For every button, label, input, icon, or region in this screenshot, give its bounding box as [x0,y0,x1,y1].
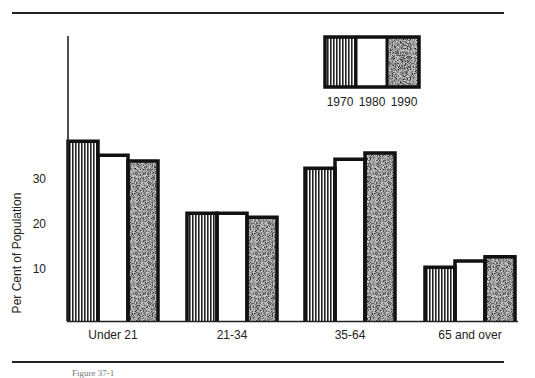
y-tick-label: 20 [33,217,47,231]
bar-1970 [187,213,217,321]
legend-label-1980: 1980 [359,95,386,109]
legend-label-1990: 1990 [391,95,418,109]
legend-swatch-1970 [325,37,356,87]
x-tick-label: 21-34 [217,328,248,342]
bar-1970 [68,141,98,321]
x-tick-label: 35-64 [335,328,366,342]
x-tick-label: Under 21 [88,328,138,342]
bar-1980 [335,159,365,321]
bar-1970 [425,267,455,321]
legend-swatch-1980 [356,37,387,87]
bar-group-under-21 [68,141,158,321]
legend-swatch-1990 [387,37,419,87]
bar-group-21-34 [187,213,277,321]
bar-1990 [128,161,158,321]
bar-1970 [305,168,335,321]
bar-1990 [247,217,277,321]
bar-1980 [217,213,247,321]
legend-label-1970: 1970 [327,95,354,109]
bar-1990 [485,257,515,321]
x-category-labels: Under 2121-3435-6465 and over [88,328,501,342]
y-tick-label: 30 [33,172,47,186]
bar-group-65-and-over [425,257,515,321]
bar-1980 [98,155,128,321]
figure-caption: Figure 37-1 [72,368,114,378]
y-tick-labels: 102030 [33,172,47,276]
y-tick-label: 10 [33,262,47,276]
bar-group-35-64 [305,153,395,321]
bar-1990 [365,153,395,321]
legend: 1970 1980 1990 [325,37,419,109]
bars-group [68,141,515,321]
bar-1980 [455,261,485,321]
y-axis-label: Per Cent of Population [10,193,24,314]
x-tick-label: 65 and over [438,328,501,342]
